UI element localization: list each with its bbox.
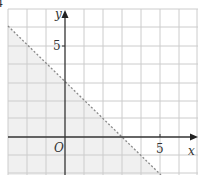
inequality-graph: y x 5 5 O xyxy=(0,0,198,175)
x-axis-label: x xyxy=(188,144,195,158)
y-axis-arrow-icon xyxy=(62,10,69,18)
figure-label: 4 xyxy=(0,0,3,10)
x-tick-5: 5 xyxy=(156,142,164,156)
origin-label: O xyxy=(54,141,64,155)
y-tick-5: 5 xyxy=(53,39,61,53)
y-axis-label: y xyxy=(54,7,62,21)
